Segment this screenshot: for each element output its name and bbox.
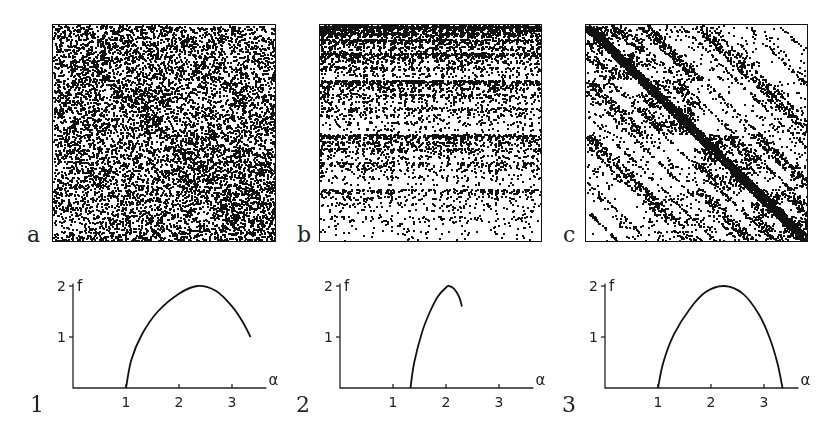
x-tick-label: 2	[707, 394, 716, 410]
spectrum-plot-2: 12123fα	[324, 277, 545, 410]
y-axis-label: f	[344, 277, 350, 295]
spectrum-curve	[658, 286, 783, 388]
panel-label-2: 2	[296, 392, 310, 417]
x-axis-label: α	[535, 371, 545, 389]
y-tick-label: 2	[57, 278, 66, 294]
y-tick-label: 1	[589, 329, 598, 345]
x-tick-label: 3	[760, 394, 769, 410]
panel-label-3: 3	[562, 392, 576, 417]
y-tick-label: 1	[324, 329, 333, 345]
y-axis-label: f	[609, 277, 615, 295]
x-tick-label: 1	[389, 394, 398, 410]
x-axis-label: α	[268, 371, 278, 389]
x-tick-label: 2	[442, 394, 451, 410]
y-tick-label: 2	[589, 278, 598, 294]
x-tick-label: 3	[228, 394, 237, 410]
spectrum-plot-3: 12123fα	[589, 277, 810, 410]
x-tick-label: 1	[122, 394, 131, 410]
y-tick-label: 1	[57, 329, 66, 345]
x-tick-label: 1	[654, 394, 663, 410]
x-tick-label: 3	[495, 394, 504, 410]
axes	[73, 283, 266, 388]
x-tick-label: 2	[175, 394, 184, 410]
spectrum-curve	[410, 286, 461, 388]
x-axis-label: α	[800, 371, 810, 389]
spectrum-plots: 12123fα 12123fα 12123fα	[0, 0, 840, 443]
spectrum-plot-1: 12123fα	[57, 277, 278, 410]
y-tick-label: 2	[324, 278, 333, 294]
spectrum-curve	[126, 286, 251, 388]
y-axis-label: f	[77, 277, 83, 295]
panel-label-1: 1	[30, 392, 44, 417]
